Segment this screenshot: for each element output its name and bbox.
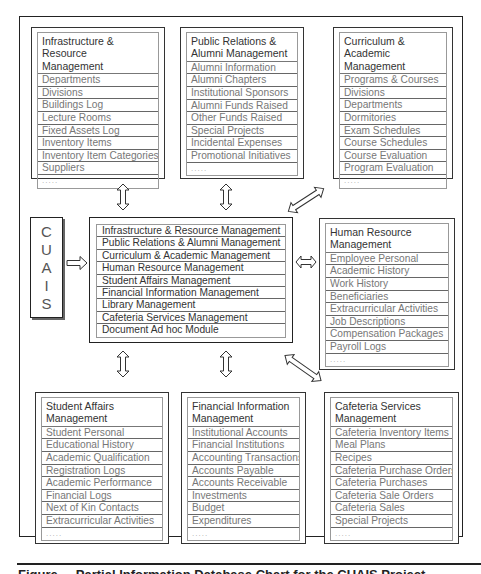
figure-caption-text: Figure ... Partial Information Database … bbox=[18, 568, 481, 574]
module-item: Work History bbox=[326, 278, 448, 291]
module-item: Cafeteria Purchases bbox=[331, 477, 452, 490]
module-item: Special Projects bbox=[331, 515, 452, 528]
module-financial: Financial Information Management Institu… bbox=[181, 392, 306, 544]
cuais-letter: C bbox=[41, 223, 52, 241]
cuais-letter: I bbox=[44, 277, 48, 295]
double-arrow-vertical-icon bbox=[218, 183, 234, 211]
module-item: Inventory Items bbox=[38, 137, 158, 150]
central-module-item: Financial Information Management bbox=[97, 287, 285, 299]
module-item: Departments bbox=[38, 74, 158, 87]
module-item: Institutional Sponsors bbox=[187, 87, 297, 100]
module-item-ellipsis: ..... bbox=[326, 354, 448, 367]
module-item: Cafeteria Inventory Items bbox=[331, 427, 452, 440]
module-title: Financial Information Management bbox=[188, 398, 299, 427]
module-title-line1: Public Relations & bbox=[191, 35, 293, 47]
caption-divider bbox=[17, 563, 481, 565]
module-item: Cafeteria Purchase Orders bbox=[331, 465, 452, 478]
module-item: Beneficiaries bbox=[326, 291, 448, 304]
module-item: Extracurricular Activities bbox=[42, 515, 162, 528]
module-item: Cafeteria Sales bbox=[331, 502, 452, 515]
module-item-ellipsis: ..... bbox=[187, 163, 297, 176]
central-module-item: Curriculum & Academic Management bbox=[97, 250, 285, 262]
module-cafeteria: Cafeteria Services Management Cafeteria … bbox=[324, 392, 459, 544]
module-title: Curriculum & Academic Management bbox=[340, 33, 446, 74]
cuais-system-box: C U A I S bbox=[30, 217, 63, 318]
module-item: Accounting Transactions bbox=[188, 452, 299, 465]
module-item: Promotional Initiatives bbox=[187, 150, 297, 163]
module-title: Public Relations & Alumni Management bbox=[187, 33, 297, 62]
module-item: Incidental Expenses bbox=[187, 137, 297, 150]
module-item: Cafeteria Sale Orders bbox=[331, 490, 452, 503]
module-title-line2: Alumni Management bbox=[191, 47, 293, 59]
module-item: Exam Schedules bbox=[340, 125, 446, 138]
module-item: Registration Logs bbox=[42, 465, 162, 478]
module-item: Divisions bbox=[340, 87, 446, 100]
figure-caption: Figure ... Partial Information Database … bbox=[18, 568, 481, 574]
module-title: Cafeteria Services Management bbox=[331, 398, 452, 427]
double-arrow-vertical-icon bbox=[115, 350, 131, 378]
module-title-line1: Curriculum & Academic bbox=[344, 35, 442, 60]
central-module-item: Student Affairs Management bbox=[97, 275, 285, 287]
central-module-item: Infrastructure & Resource Management bbox=[97, 225, 285, 237]
module-item: Academic Performance bbox=[42, 477, 162, 490]
module-item-ellipsis: ..... bbox=[331, 528, 452, 541]
module-infrastructure: Infrastructure & Resource Management Dep… bbox=[31, 27, 165, 179]
module-item: Expenditures bbox=[188, 515, 299, 528]
module-item: Course Evaluation bbox=[340, 150, 446, 163]
cuais-letter: U bbox=[41, 241, 52, 259]
module-item: Employee Personal bbox=[326, 253, 448, 266]
module-item: Accounts Receivable bbox=[188, 477, 299, 490]
central-module-item: Document Ad hoc Module bbox=[97, 324, 285, 336]
double-arrow-vertical-icon bbox=[218, 350, 234, 378]
module-item: Departments bbox=[340, 99, 446, 112]
module-title-line1: Infrastructure & Resource bbox=[42, 35, 154, 60]
module-item: Payroll Logs bbox=[326, 341, 448, 354]
module-title-line1: Student Affairs bbox=[46, 400, 158, 412]
double-arrow-vertical-icon bbox=[115, 183, 131, 211]
module-item: Job Descriptions bbox=[326, 316, 448, 329]
module-item: Alumni Chapters bbox=[187, 74, 297, 87]
double-arrow-diagonal-icon bbox=[280, 350, 326, 386]
cuais-letter: S bbox=[41, 295, 51, 313]
module-item: Recipes bbox=[331, 452, 452, 465]
module-item: Next of Kin Contacts bbox=[42, 502, 162, 515]
module-title-line2: Management bbox=[330, 238, 444, 250]
module-item: Academic History bbox=[326, 265, 448, 278]
module-student-affairs: Student Affairs Management Student Perso… bbox=[35, 392, 169, 544]
module-item: Lecture Rooms bbox=[38, 112, 158, 125]
module-item: Course Schedules bbox=[340, 137, 446, 150]
module-title-line2: Management bbox=[192, 412, 295, 424]
module-item: Buildings Log bbox=[38, 99, 158, 112]
module-item: Student Personal bbox=[42, 427, 162, 440]
module-item: Meal Plans bbox=[331, 439, 452, 452]
module-item-ellipsis: ..... bbox=[188, 528, 299, 541]
module-item: Divisions bbox=[38, 87, 158, 100]
module-item: Suppliers bbox=[38, 162, 158, 175]
module-title-line2: Management bbox=[42, 60, 154, 72]
central-module-item: Public Relations & Alumni Management bbox=[97, 237, 285, 249]
module-item: Financial Institutions bbox=[188, 439, 299, 452]
module-item: Academic Qualification bbox=[42, 452, 162, 465]
module-item: Investments bbox=[188, 490, 299, 503]
module-item: Alumni Funds Raised bbox=[187, 100, 297, 113]
module-title-line2: Management bbox=[335, 412, 448, 424]
module-title-line2: Management bbox=[46, 412, 158, 424]
module-item: Inventory Item Categories bbox=[38, 150, 158, 163]
module-title: Infrastructure & Resource Management bbox=[38, 33, 158, 74]
central-modules-box: Infrastructure & Resource Management Pub… bbox=[89, 217, 293, 343]
double-arrow-diagonal-icon bbox=[284, 185, 328, 215]
module-curriculum: Curriculum & Academic Management Program… bbox=[333, 27, 453, 179]
module-item: Financial Logs bbox=[42, 490, 162, 503]
central-module-item: Human Resource Management bbox=[97, 262, 285, 274]
central-module-item: Cafeteria Services Management bbox=[97, 312, 285, 324]
module-public-relations: Public Relations & Alumni Management Alu… bbox=[180, 27, 304, 179]
central-module-item: Library Management bbox=[97, 299, 285, 311]
module-item: Extracurricular Activities bbox=[326, 303, 448, 316]
module-item: Budget bbox=[188, 502, 299, 515]
module-item: Special Projects bbox=[187, 125, 297, 138]
module-title: Student Affairs Management bbox=[42, 398, 162, 427]
module-item: Educational History bbox=[42, 439, 162, 452]
cuais-letter: A bbox=[41, 259, 51, 277]
module-title-line1: Financial Information bbox=[192, 400, 295, 412]
module-item-ellipsis: ..... bbox=[340, 175, 446, 188]
